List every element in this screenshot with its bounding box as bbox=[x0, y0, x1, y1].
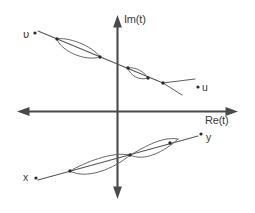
imaginary-axis-arrow-up-icon bbox=[113, 15, 122, 28]
u-point-label: u bbox=[202, 82, 208, 93]
imaginary-axis-label: Im(t) bbox=[124, 14, 146, 25]
upper-contour-node bbox=[55, 37, 58, 40]
y-point-dot bbox=[199, 132, 202, 135]
real-axis-arrow-left-icon bbox=[17, 107, 30, 116]
upsilon-point-dot bbox=[33, 31, 36, 34]
y-point-label: y bbox=[206, 132, 211, 143]
lower-contour-node bbox=[128, 153, 131, 156]
lower-contour-node bbox=[168, 141, 171, 144]
imaginary-axis-arrow-down-icon bbox=[113, 187, 122, 200]
upper-contour-branch-lower bbox=[163, 83, 182, 95]
real-axis-label: Re(t) bbox=[205, 115, 228, 126]
upper-contour-node bbox=[161, 81, 164, 84]
imaginary-axis bbox=[113, 15, 122, 199]
upper-contour-node bbox=[98, 55, 101, 58]
upper-contour-node bbox=[146, 76, 149, 79]
upsilon-point-label: υ bbox=[23, 29, 29, 40]
upper-contour-branch-upper bbox=[163, 79, 195, 83]
x-point-label: x bbox=[23, 172, 28, 183]
figure-canvas: Im(t) Re(t) υ u y x bbox=[0, 0, 255, 213]
x-point-dot bbox=[34, 176, 37, 179]
axes-group bbox=[17, 15, 238, 199]
upper-contour-node bbox=[126, 66, 129, 69]
diagram-svg bbox=[0, 0, 255, 213]
lower-contour-node bbox=[68, 169, 71, 172]
u-point-dot bbox=[196, 85, 199, 88]
